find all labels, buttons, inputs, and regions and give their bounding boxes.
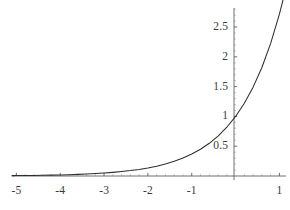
x-tick-label: -2 <box>143 185 153 197</box>
plot-canvas <box>0 0 290 210</box>
axes-group <box>12 8 286 180</box>
x-tick-label: -1 <box>187 185 197 197</box>
exponential-plot: -5-4-3-2-11 0.511.522.5 <box>0 0 290 210</box>
x-tick-label: -4 <box>55 185 65 197</box>
y-tick-label: 0.5 <box>213 140 228 152</box>
x-tick-label: -5 <box>12 185 22 197</box>
x-tick-label: -3 <box>99 185 109 197</box>
x-tick-label: 1 <box>276 185 282 197</box>
y-tick-label: 2.5 <box>213 21 228 33</box>
y-tick-label: 1.5 <box>213 81 228 93</box>
y-tick-label: 1 <box>222 111 228 123</box>
exponential-curve <box>12 0 285 176</box>
y-tick-label: 2 <box>222 51 228 63</box>
